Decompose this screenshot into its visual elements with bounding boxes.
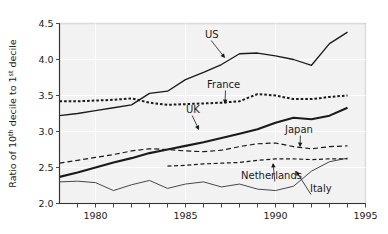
y-tick-label: 2.5 bbox=[38, 162, 53, 173]
y-tick-label: 3.0 bbox=[38, 126, 53, 137]
chart-figure: 2.02.53.03.54.04.5 1980198519901995 Rati… bbox=[0, 0, 388, 234]
x-tick-label: 1995 bbox=[353, 210, 377, 221]
x-tick-label: 1990 bbox=[263, 210, 287, 221]
line-chart: 2.02.53.03.54.04.5 1980198519901995 Rati… bbox=[0, 0, 388, 234]
y-tick-label: 4.0 bbox=[38, 54, 53, 65]
plot-area bbox=[60, 24, 366, 204]
y-axis-title-text: Ratio of 10th decile to 1st decile bbox=[7, 39, 18, 188]
annotation-label: Italy bbox=[310, 183, 332, 194]
annotation-label: US bbox=[205, 29, 219, 40]
plot-background bbox=[60, 24, 366, 204]
y-tick-label: 4.5 bbox=[38, 18, 53, 29]
y-tick-label: 3.5 bbox=[38, 90, 53, 101]
annotation-label: UK bbox=[186, 104, 200, 115]
y-axis-title-superscript: th bbox=[7, 129, 15, 136]
y-axis-title-segment: decile bbox=[7, 39, 18, 70]
annotation-label: France bbox=[207, 79, 240, 90]
annotation-label: Japan bbox=[284, 124, 313, 135]
y-axis-title-segment: decile to 1 bbox=[7, 76, 18, 129]
y-axis-title-segment: Ratio of 10 bbox=[7, 136, 18, 188]
annotation-label: Netherlands bbox=[241, 170, 302, 181]
x-tick-label: 1980 bbox=[83, 210, 107, 221]
y-tick-label: 2.0 bbox=[38, 198, 53, 209]
y-axis-title: Ratio of 10th decile to 1st decile bbox=[7, 39, 18, 188]
x-tick-label: 1985 bbox=[173, 210, 197, 221]
